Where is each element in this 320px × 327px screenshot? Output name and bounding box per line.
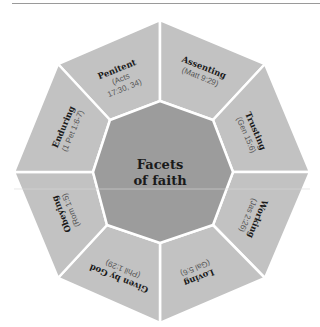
facets-of-faith-diagram: Facets of faith Penitent (Acts 17:30, 34…	[0, 0, 320, 327]
center-title-line2: of faith	[133, 173, 187, 188]
center-title-line1: Facets	[137, 157, 183, 172]
center-octagon	[93, 101, 233, 243]
